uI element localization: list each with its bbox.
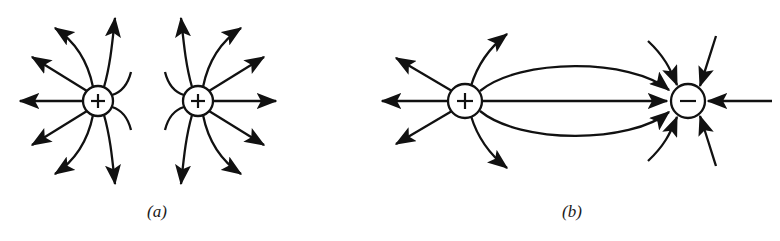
field-line-a-right-inner-nw <box>165 72 184 95</box>
field-line-a-left-inner-ne <box>112 72 131 95</box>
field-line-b-arc-upper <box>480 66 669 91</box>
field-line-b-neg-ne-in <box>700 36 716 86</box>
field-line-b-arc-lower <box>480 111 669 136</box>
panel-b-field-lines <box>382 34 772 168</box>
field-line-a-right-inner-sw <box>165 107 184 130</box>
field-line-b-neg-s-in <box>648 117 677 161</box>
panel-a-field-lines <box>20 18 276 184</box>
field-line-canvas <box>0 0 780 241</box>
field-line-a-right-n <box>181 18 192 87</box>
field-line-a-left-sw <box>55 115 93 174</box>
field-line-a-right-ne <box>203 28 241 87</box>
field-line-b-pos-wsw <box>396 111 452 144</box>
field-line-a-right-s <box>181 115 192 184</box>
field-line-a-left-n <box>104 18 115 87</box>
field-line-b-neg-n-in <box>648 41 677 85</box>
field-line-a-left-inner-se <box>112 107 131 130</box>
field-line-a-left-wsw <box>32 111 87 145</box>
field-line-b-neg-se-in <box>700 116 716 166</box>
electric-field-figure: (a) (b) <box>0 0 780 241</box>
field-line-a-right-ene <box>209 57 264 91</box>
panel-label-b: (b) <box>562 202 582 222</box>
field-line-a-left-nw <box>55 28 93 87</box>
field-line-b-pos-wnw <box>396 58 452 91</box>
field-line-a-right-se <box>203 115 241 174</box>
field-line-a-left-s <box>104 115 115 184</box>
field-line-a-right-ese <box>209 111 264 145</box>
panel-label-a: (a) <box>147 202 167 222</box>
field-line-a-left-wnw <box>32 57 87 91</box>
